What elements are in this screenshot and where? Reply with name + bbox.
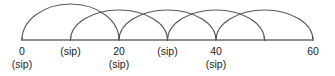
tick-label-group: 40(sip) (186, 45, 246, 71)
tick-label-value: 40 (186, 45, 246, 58)
tick-label-group: 60 (283, 45, 335, 58)
hop-arc (22, 4, 119, 40)
tick-label-annotation: (sip) (0, 58, 52, 71)
tick-label-value: 60 (283, 45, 335, 58)
arc-group (22, 4, 313, 40)
tick-label-annotation: (sip) (89, 58, 149, 71)
tick-label-annotation: (sip) (186, 58, 246, 71)
number-line-diagram: 0(sip)(sip)20(sip)(sip)40(sip)60 (0, 0, 335, 76)
